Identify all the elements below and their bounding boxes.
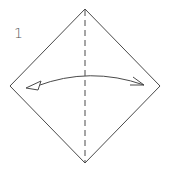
origami-diagram xyxy=(0,0,171,171)
fold-unfold-arrow-curve xyxy=(37,76,144,86)
half-arrowhead-icon xyxy=(133,77,144,85)
hollow-arrowhead-icon xyxy=(26,81,41,90)
